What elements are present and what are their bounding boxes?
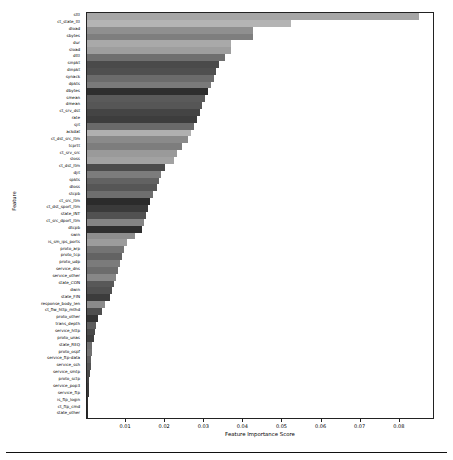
- bar-row: [87, 356, 433, 363]
- bar: [87, 150, 177, 157]
- bar: [87, 349, 92, 356]
- y-tick-label: state_FIN: [61, 295, 80, 299]
- bar: [87, 239, 127, 246]
- x-tick-mark: [281, 419, 282, 422]
- y-tick-label: ct_srv_dst: [59, 109, 80, 113]
- x-tick-label: 0.03: [198, 423, 209, 429]
- y-tick-label: proto_udp: [59, 260, 80, 264]
- bar: [87, 102, 202, 109]
- x-axis-title: Feature Importance Score: [86, 431, 434, 437]
- bar: [87, 13, 419, 20]
- y-tick-label: service_pop3: [53, 384, 80, 388]
- bar-row: [87, 219, 433, 226]
- y-tick-label: dpkts: [69, 82, 80, 86]
- bar-row: [87, 109, 433, 116]
- bar: [87, 212, 146, 219]
- y-tick-label: synack: [66, 75, 80, 79]
- bar: [87, 253, 122, 260]
- bar-row: [87, 404, 433, 411]
- bar: [87, 109, 200, 116]
- y-tick-label: ct_src_ltm: [59, 199, 80, 203]
- bar: [87, 54, 225, 61]
- y-tick-label: ct_flw_http_mthd: [45, 308, 80, 312]
- bar-row: [87, 178, 433, 185]
- bar-row: [87, 301, 433, 308]
- bar: [87, 390, 89, 397]
- bar-row: [87, 191, 433, 198]
- x-tick-label: 0.07: [354, 423, 365, 429]
- y-tick-label: ackdat: [66, 130, 80, 134]
- y-tick-label: dload: [69, 27, 80, 31]
- bar-row: [87, 335, 433, 342]
- bar-row: [87, 150, 433, 157]
- bar-row: [87, 34, 433, 41]
- bar-row: [87, 363, 433, 370]
- bar: [87, 198, 150, 205]
- x-tick-mark: [164, 419, 165, 422]
- bar-row: [87, 88, 433, 95]
- bar: [87, 233, 135, 240]
- bar-row: [87, 157, 433, 164]
- bar: [87, 143, 182, 150]
- bar: [87, 178, 159, 185]
- bar-row: [87, 287, 433, 294]
- bar-row: [87, 68, 433, 75]
- bar-row: [87, 40, 433, 47]
- bar-row: [87, 411, 433, 418]
- bar: [87, 88, 208, 95]
- bar: [87, 68, 216, 75]
- bar-row: [87, 226, 433, 233]
- y-tick-label: proto_sctp: [59, 377, 80, 381]
- bar: [87, 404, 88, 411]
- x-tick-label: 0.08: [393, 423, 404, 429]
- y-tick-label: state_CON: [58, 281, 80, 285]
- y-tick-label: sttl: [74, 13, 80, 17]
- bar-row: [87, 253, 433, 260]
- y-tick-label: ct_state_ttl: [57, 20, 80, 24]
- y-tick-label: service_ftp-data: [47, 356, 80, 360]
- bar: [87, 301, 105, 308]
- bar: [87, 281, 114, 288]
- bar: [87, 157, 174, 164]
- bar-row: [87, 130, 433, 137]
- bar: [87, 20, 291, 27]
- y-tick-label: dloss: [69, 185, 80, 189]
- x-tick-label: 0.02: [159, 423, 170, 429]
- bar-row: [87, 294, 433, 301]
- y-tick-label: proto_other: [56, 315, 80, 319]
- y-tick-label: dur: [73, 41, 80, 45]
- bar: [87, 191, 153, 198]
- y-tick-label: service_ftp: [58, 391, 80, 395]
- bar-row: [87, 260, 433, 267]
- bar-row: [87, 27, 433, 34]
- figure-bottom-rule: [6, 452, 447, 453]
- bar-row: [87, 342, 433, 349]
- y-tick-label: djit: [74, 171, 80, 175]
- bar-row: [87, 75, 433, 82]
- bar-row: [87, 20, 433, 27]
- y-tick-label: service_http: [55, 329, 80, 333]
- y-tick-label: dttl: [73, 54, 80, 58]
- y-tick-label: service_ssh: [56, 363, 80, 367]
- y-tick-label: service_other: [52, 274, 80, 278]
- bar: [87, 116, 197, 123]
- y-tick-label: ct_dst_src_ltm: [51, 137, 80, 141]
- bar: [87, 315, 98, 322]
- bar: [87, 130, 191, 137]
- y-tick-label: stcpb: [69, 192, 80, 196]
- y-tick-label: proto_arp: [60, 247, 80, 251]
- bar: [87, 136, 188, 143]
- bar-row: [87, 239, 433, 246]
- y-tick-label: dbytes: [66, 89, 80, 93]
- bar: [87, 40, 231, 47]
- bar-row: [87, 322, 433, 329]
- bar-row: [87, 54, 433, 61]
- bar: [87, 342, 92, 349]
- bar-row: [87, 267, 433, 274]
- y-tick-label: ct_dst_sport_ltm: [46, 205, 80, 209]
- bar-row: [87, 123, 433, 130]
- bar-row: [87, 82, 433, 89]
- bar: [87, 397, 88, 404]
- bar: [87, 226, 142, 233]
- x-tick-mark: [321, 419, 322, 422]
